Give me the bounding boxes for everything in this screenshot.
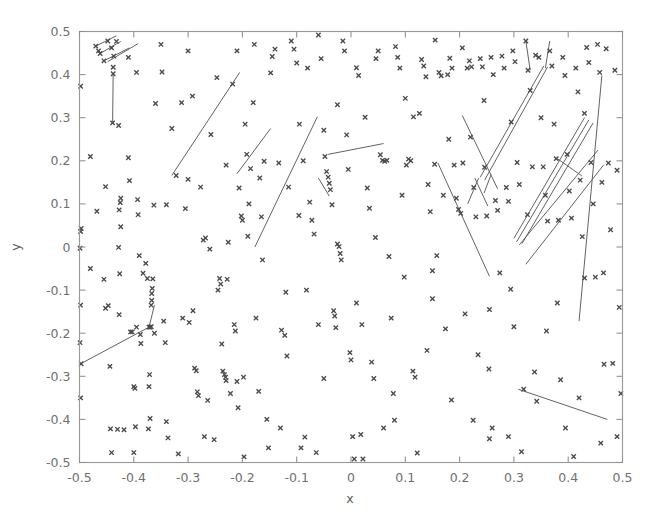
y-tick-label: 0.3 xyxy=(51,110,71,125)
y-tick-label: 0.4 xyxy=(51,67,71,82)
y-tick-label: -0.5 xyxy=(46,455,70,470)
x-tick-label: -0.1 xyxy=(285,470,309,485)
figure-background xyxy=(0,0,652,516)
x-tick-label: -0.4 xyxy=(122,470,146,485)
y-tick-label: 0.1 xyxy=(51,196,71,211)
scatter-plot-figure: -0.5-0.4-0.3-0.2-0.100.10.20.30.40.5 -0.… xyxy=(0,0,652,516)
x-tick-label: 0 xyxy=(347,470,355,485)
y-tick-label: -0.1 xyxy=(46,283,70,298)
y-tick-label: -0.4 xyxy=(46,412,70,427)
x-tick-label: -0.5 xyxy=(67,470,91,485)
y-tick-label: -0.3 xyxy=(46,369,70,384)
x-tick-label: 0.5 xyxy=(613,470,633,485)
y-tick-label: 0.5 xyxy=(51,24,71,39)
connector-segment xyxy=(113,74,114,123)
scatter-plot-canvas: -0.5-0.4-0.3-0.2-0.100.10.20.30.40.5 -0.… xyxy=(0,0,652,516)
x-axis-label: x xyxy=(346,491,353,506)
y-axis-label: y xyxy=(8,243,23,251)
x-tick-label: 0.3 xyxy=(504,470,524,485)
y-tick-label: -0.2 xyxy=(46,326,70,341)
y-tick-label: 0.2 xyxy=(51,153,71,168)
y-tick-label: 0 xyxy=(63,240,71,255)
x-tick-label: 0.2 xyxy=(450,470,470,485)
x-tick-label: 0.4 xyxy=(558,470,578,485)
x-tick-label: 0.1 xyxy=(395,470,415,485)
x-tick-label: -0.2 xyxy=(230,470,254,485)
x-tick-label: -0.3 xyxy=(176,470,200,485)
